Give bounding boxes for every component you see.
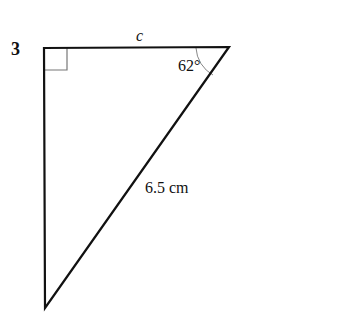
- angle-label: 62°: [178, 57, 200, 74]
- question-number: 3: [11, 39, 20, 59]
- hypotenuse-label: 6.5 cm: [145, 179, 189, 196]
- right-triangle: [44, 47, 229, 308]
- side-c-label: c: [136, 27, 143, 44]
- triangle-diagram: 3 c 62° 6.5 cm: [0, 0, 342, 328]
- right-angle-marker: [44, 48, 67, 70]
